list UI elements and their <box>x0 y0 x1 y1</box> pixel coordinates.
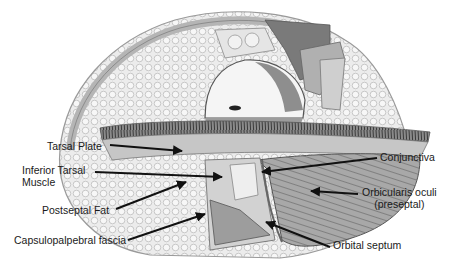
label-inferior-tarsal-muscle-line1: Inferior Tarsal <box>22 164 85 176</box>
label-orbital-septum: Orbital septum <box>333 239 401 251</box>
label-inferior-tarsal-muscle: Inferior Tarsal Muscle <box>22 164 85 188</box>
label-conjunctiva: Conjunctiva <box>380 151 435 163</box>
label-orbicularis-oculi-line1: Orbicularis oculi <box>362 186 437 198</box>
label-tarsal-plate: Tarsal Plate <box>47 140 102 152</box>
label-orbicularis-oculi-line2: (preseptal) <box>362 198 437 210</box>
eyelid-anatomy-illustration <box>0 0 449 267</box>
label-inferior-tarsal-muscle-line2: Muscle <box>22 176 85 188</box>
label-orbicularis-oculi: Orbicularis oculi (preseptal) <box>362 186 437 210</box>
label-capsulopalpebral-fascia: Capsulopalpebral fascia <box>14 234 126 246</box>
label-postseptal-fat: Postseptal Fat <box>42 204 109 216</box>
